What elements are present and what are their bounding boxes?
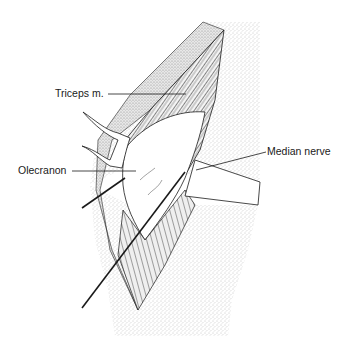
label-olecranon: Olecranon [18, 165, 66, 176]
label-median-nerve: Median nerve [267, 146, 331, 157]
label-triceps: Triceps m. [55, 88, 104, 99]
anatomical-illustration [0, 0, 341, 353]
